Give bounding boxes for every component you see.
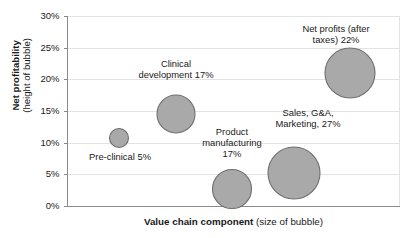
- y-tick-label: 10%: [40, 137, 60, 148]
- bubble-sales-gna-marketing[interactable]: [268, 147, 320, 199]
- y-tick-label: 15%: [40, 105, 60, 116]
- y-axis-label-main: Net profitability: [10, 16, 21, 134]
- x-axis-label-main: Value chain component: [144, 216, 253, 227]
- bubble-label-pre-clinical: Pre-clinical 5%: [72, 151, 168, 162]
- y-axis-label-sub: (height of bubble): [21, 16, 32, 134]
- bubble-product-manufacturing[interactable]: [213, 170, 252, 209]
- bubble-label-product-manufacturing: Product manufacturing 17%: [192, 126, 272, 160]
- y-tick-label: 5%: [46, 168, 60, 179]
- bubble-clinical-development[interactable]: [157, 95, 195, 133]
- bubble-chart: 0%5%10%15%20%25%30% Net profitability (h…: [0, 0, 413, 238]
- bubble-pre-clinical[interactable]: [110, 129, 129, 148]
- y-axis-label: Net profitability (height of bubble): [10, 16, 33, 134]
- bubble-label-sales-gna-marketing: Sales, G&A, Marketing, 27%: [258, 107, 358, 129]
- x-axis-label: Value chain component (size of bubble): [67, 216, 400, 227]
- bubble-label-clinical-development: Clinical development 17%: [126, 58, 226, 80]
- x-axis-label-sub: (size of bubble): [256, 216, 323, 227]
- y-tick-label: 25%: [40, 42, 60, 53]
- bubble-label-net-profits-after-taxes: Net profits (after taxes) 22%: [278, 23, 394, 45]
- y-axis-tick-labels: 0%5%10%15%20%25%30%: [40, 10, 60, 211]
- y-tick-label: 30%: [40, 10, 60, 21]
- y-tick-label: 20%: [40, 73, 60, 84]
- bubble-net-profits-after-taxes[interactable]: [325, 48, 375, 98]
- y-tick-label: 0%: [46, 200, 60, 211]
